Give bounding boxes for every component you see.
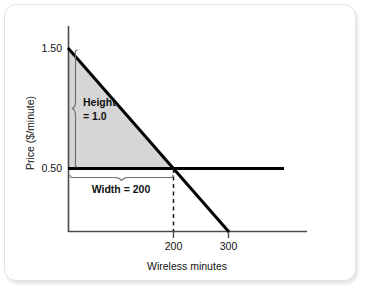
x-axis-title: Wireless minutes: [147, 260, 227, 272]
x-tick-label-200: 200: [165, 240, 183, 252]
y-axis-title: Price ($/minute): [24, 96, 36, 170]
height-annotation-line1: Height: [83, 96, 116, 108]
width-annotation-label: Width = 200: [92, 183, 151, 195]
width-brace-icon: [70, 175, 173, 181]
x-tick-label-300: 300: [220, 240, 238, 252]
y-tick-label-low: 0.50: [42, 162, 63, 174]
figure-card: 1.50 0.50 200 300 Wireless minutes Price…: [4, 4, 356, 281]
economics-surplus-chart: 1.50 0.50 200 300 Wireless minutes Price…: [5, 5, 356, 281]
y-tick-label-high: 1.50: [42, 42, 63, 54]
height-annotation-line2: = 1.0: [83, 110, 107, 122]
